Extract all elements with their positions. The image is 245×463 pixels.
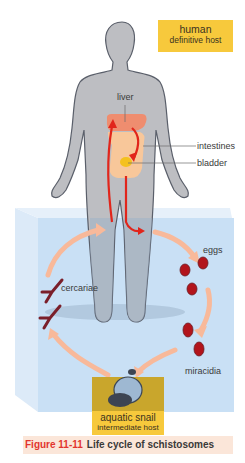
diagram-artwork [0,0,245,463]
figure-title: Life cycle of schistosomes [87,439,214,450]
bladder-shape [120,157,132,167]
liver-label: liver [117,92,134,102]
figure-caption: Figure 11-11Life cycle of schistosomes [23,436,233,454]
definitive-host-role: definitive host [158,35,233,45]
miracidia-label: miracidia [185,366,221,376]
eggs-label: eggs [203,245,223,255]
definitive-host-box: human definitive host [158,20,233,52]
intermediate-host-name: aquatic snail [92,412,164,423]
bladder-label: bladder [197,158,227,168]
cercariae-label: cercariae [61,283,98,293]
figure-number: Figure 11-11 [25,439,83,450]
schistosome-life-cycle-diagram: human definitive host aquatic snail inte… [0,0,245,463]
intestines-label: intestines [197,141,235,151]
definitive-host-name: human [158,23,233,35]
intermediate-host-box: aquatic snail intermediate host [92,411,164,435]
intermediate-host-role: intermediate host [92,423,164,433]
